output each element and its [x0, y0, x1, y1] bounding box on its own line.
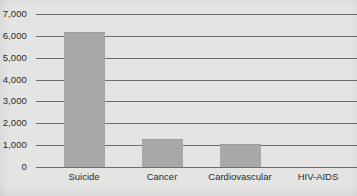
bar-cardiovascular [220, 144, 261, 167]
plot-area [45, 14, 357, 167]
x-axis-label: Cardiovascular [201, 170, 279, 184]
y-axis-label: 1,000 [0, 140, 27, 150]
y-axis-label: 2,000 [0, 118, 27, 128]
bar-chart-figure: 01,0002,0003,0004,0005,0006,0007,000 Sui… [0, 0, 357, 196]
gridline-7000 [45, 14, 357, 15]
x-axis-label: Suicide [45, 170, 123, 184]
y-tick-mark-6000 [36, 36, 45, 37]
y-axis-label: 4,000 [0, 75, 27, 85]
y-tick-mark-2000 [36, 123, 45, 124]
y-tick-mark-5000 [36, 58, 45, 59]
bar-cancer [142, 139, 183, 167]
bar-suicide [64, 32, 105, 168]
y-axis-label: 6,000 [0, 31, 27, 41]
y-axis-label: 3,000 [0, 96, 27, 106]
y-axis-label: 7,000 [0, 9, 27, 19]
y-tick-mark-3000 [36, 101, 45, 102]
y-tick-mark-0 [36, 167, 45, 168]
y-axis-label: 0 [0, 162, 27, 172]
y-tick-mark-4000 [36, 80, 45, 81]
x-axis-label: Cancer [123, 170, 201, 184]
x-axis-category-labels: SuicideCancerCardiovascularHIV-AIDS [45, 170, 357, 186]
gridline-0 [45, 167, 357, 168]
x-axis-label: HIV-AIDS [279, 170, 357, 184]
y-axis-label: 5,000 [0, 53, 27, 63]
y-tick-mark-1000 [36, 145, 45, 146]
y-axis-tick-labels: 01,0002,0003,0004,0005,0006,0007,000 [0, 14, 36, 167]
y-tick-mark-7000 [36, 14, 45, 15]
